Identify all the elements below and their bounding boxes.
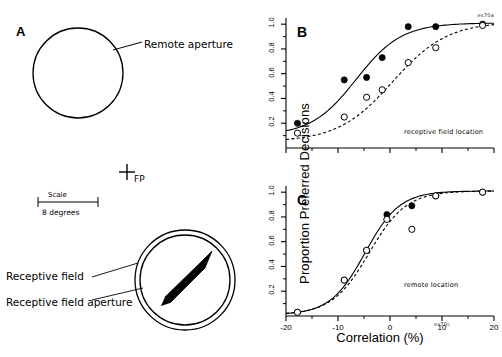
- y-tick-label: 0.4: [267, 254, 276, 276]
- data-point-filled: [364, 74, 370, 80]
- x-tick-label: 10: [430, 323, 454, 332]
- y-tick-label: 0.6: [267, 61, 276, 83]
- receptive-field-label: Receptive field: [6, 270, 84, 282]
- x-tick-label: -20: [274, 323, 298, 332]
- x-tick-label: 20: [482, 323, 502, 332]
- panel-b-letter: B: [297, 24, 307, 40]
- scale-bar: [38, 197, 98, 207]
- panel-c-plot: [281, 186, 494, 321]
- y-tick-label: 0.4: [267, 86, 276, 108]
- data-point-open: [405, 59, 411, 65]
- data-point-open: [379, 87, 385, 93]
- data-point-open: [409, 226, 415, 232]
- y-tick-label: 1.0: [267, 180, 276, 202]
- figure-canvas: A es70a Remote aperture FP Scale 8 degre…: [0, 0, 502, 357]
- data-point-open: [341, 114, 347, 120]
- y-tick-label: 0.8: [267, 204, 276, 226]
- dashed-fit-curve-open: [286, 25, 494, 140]
- data-point-filled: [341, 77, 347, 83]
- fixation-point-cross: [119, 164, 135, 180]
- solid-fit-curve-filled: [286, 23, 494, 131]
- y-tick-label: 0.6: [267, 229, 276, 251]
- data-point-filled: [409, 203, 415, 209]
- data-point-open: [479, 189, 485, 195]
- panel-b-annotation: receptive field location: [404, 128, 483, 136]
- panel-c-letter: C: [297, 192, 307, 208]
- data-point-filled: [379, 55, 385, 61]
- y-tick-label: 1.0: [267, 12, 276, 34]
- data-point-open: [364, 94, 370, 100]
- panel-c-annotation: remote location: [404, 281, 458, 289]
- scale-value-label: 8 degrees: [42, 208, 79, 217]
- dashed-fit-curve-open: [286, 191, 494, 313]
- panel-a-letter: A: [16, 24, 25, 39]
- receptive-field-leader: [92, 263, 138, 277]
- receptive-field-aperture-label: Receptive field aperture: [6, 296, 132, 308]
- y-tick-label: 0.2: [267, 111, 276, 133]
- remote-aperture-circle: [33, 28, 123, 118]
- panels-bc-plot-area: [250, 0, 502, 357]
- x-axis-label: Correlation (%): [300, 330, 460, 345]
- x-tick-label: -10: [326, 323, 350, 332]
- data-point-filled: [405, 24, 411, 30]
- fixation-point-label: FP: [134, 174, 145, 184]
- x-tick-label: 0: [378, 323, 402, 332]
- y-tick-label: 0.8: [267, 36, 276, 58]
- data-point-open: [433, 45, 439, 51]
- data-point-open: [479, 22, 485, 28]
- remote-aperture-leader: [113, 42, 142, 50]
- data-point-filled: [433, 24, 439, 30]
- y-tick-label: 0.2: [267, 279, 276, 301]
- data-point-open: [433, 193, 439, 199]
- scale-label: Scale: [48, 191, 67, 199]
- data-point-open: [364, 247, 370, 253]
- remote-aperture-label: Remote aperture: [144, 38, 233, 50]
- data-point-open: [384, 216, 390, 222]
- solid-fit-curve-filled: [286, 191, 494, 313]
- data-point-open: [341, 277, 347, 283]
- data-point-open: [294, 309, 300, 315]
- motion-direction-arrow: [161, 251, 212, 306]
